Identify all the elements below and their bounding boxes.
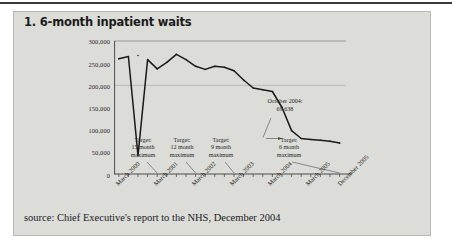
leader-target-15-month: [147, 162, 157, 173]
annotation-line: Target:: [280, 137, 297, 143]
annotation-line: 12 month: [170, 144, 193, 150]
annotation-line: Target:: [134, 137, 151, 143]
annotation-target-12-month: Target: 12 month maximum: [161, 137, 203, 159]
annotation-target-15-month: Target: 15 month maximum: [122, 137, 164, 159]
annotation-line: 15 month: [131, 144, 154, 150]
callout-value: 69,638: [256, 106, 314, 114]
annotation-line: 9 month: [211, 144, 231, 150]
annotation-line: maximum: [170, 152, 195, 158]
annotation-line: maximum: [131, 152, 156, 158]
leader-october-2004: [263, 118, 271, 138]
leader-target-12-month: [186, 162, 196, 173]
annotation-line: maximum: [209, 152, 234, 158]
annotation-line: maximum: [277, 152, 302, 158]
source-note: source: Chief Executive's report to the …: [24, 212, 280, 223]
annotation-october-2004: October 2004: 69,638: [256, 98, 314, 113]
callout-label: October 2004:: [267, 98, 302, 104]
annotation-target-6-month: Target: 6 month maximum: [268, 137, 310, 159]
leader-target-9-month: [225, 162, 234, 173]
top-rule: [0, 2, 452, 4]
annotation-line: Target:: [173, 137, 190, 143]
annotation-line: Target:: [212, 137, 229, 143]
figure-page: 1. 6-month inpatient waits 300,000 250,0…: [0, 0, 452, 250]
page-title: 1. 6-month inpatient waits: [24, 15, 191, 29]
line-chart: 300,000 250,000 200,000 150,000 100,000 …: [70, 36, 360, 176]
annotation-target-9-month: Target: 9 month maximum: [200, 137, 242, 159]
annotation-line: 6 month: [279, 144, 299, 150]
